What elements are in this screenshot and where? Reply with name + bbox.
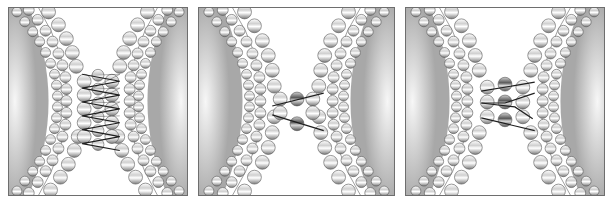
panel-3: [405, 7, 605, 196]
panel-1: [8, 7, 188, 196]
membrane-fusion-diagram-3: [406, 8, 604, 195]
membrane-fusion-diagram-1: [9, 8, 187, 195]
membrane-fusion-diagram-2: [199, 8, 394, 195]
linker-bridge: [480, 77, 534, 130]
panel-2: [198, 7, 395, 196]
